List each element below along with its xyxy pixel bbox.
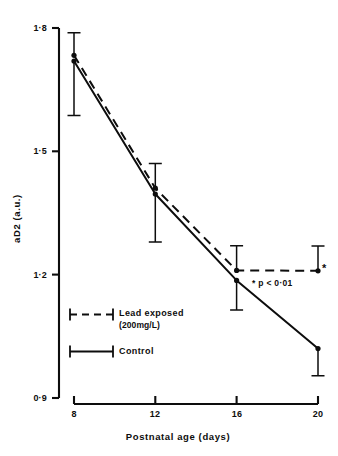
x-tick-label-8: 8 [71,409,76,419]
x-tick-label-12: 12 [150,409,160,419]
y-axis-title: aD2 (a.u.) [11,171,22,267]
error-bar-lead-12 [149,164,162,189]
figure-container: 1·8 1·5 1·2 0·9 8 12 16 20 aD2 (a.u.) Po… [0,0,338,456]
significance-star-marker: * [322,263,326,274]
significance-note: * p < 0·01 [252,278,293,288]
error-bar-lead-16 [230,246,243,271]
x-axis-title: Postnatal age (days) [126,431,230,442]
y-tick-label-1.2: 1·2 [14,270,47,280]
y-tick-label-0.9: 0·9 [14,393,47,403]
data-point-lead-16 [234,268,239,273]
series-line-control [74,61,318,349]
legend-entry-control: Control [119,345,154,357]
error-bar-control-20 [312,349,325,376]
data-point-control-16 [234,278,239,283]
x-tick-label-20: 20 [313,409,323,419]
data-point-control-8 [71,59,76,64]
legend-swatches [70,309,113,358]
error-bars-lead-exposed [68,33,325,271]
data-point-lead-20 [315,268,320,273]
chart-canvas [0,0,338,456]
y-tick-label-1.5: 1·5 [14,146,47,156]
error-bar-lead-8 [68,33,81,56]
x-axis [74,396,318,404]
legend-entry-lead-exposed-line2: (200mg/L) [119,320,160,330]
legend-entry-lead-exposed: Lead exposed (200mg/L) [119,307,184,331]
y-axis [52,28,59,398]
x-tick-label-16: 16 [232,409,242,419]
legend-entry-lead-exposed-line1: Lead exposed [119,308,184,318]
data-point-control-20 [315,346,320,351]
data-point-lead-8 [71,53,76,58]
data-point-control-12 [153,191,158,196]
error-bar-control-12 [149,194,162,242]
y-tick-label-1.8: 1·8 [14,23,47,33]
